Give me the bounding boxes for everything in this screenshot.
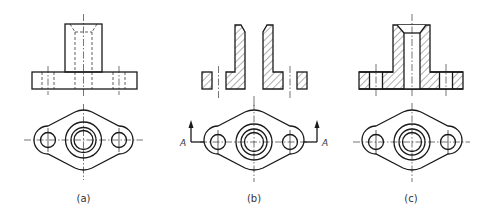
view-b: A A (b): [179, 25, 328, 204]
caption-c: (c): [404, 193, 417, 204]
section-label-right: A: [321, 138, 328, 148]
technical-drawing: (a): [0, 0, 493, 218]
view-c: (c): [353, 14, 470, 204]
view-b-section-pieces: [202, 25, 307, 106]
view-a: (a): [24, 14, 143, 204]
view-a-front: [32, 14, 137, 98]
view-b-top: A A: [179, 103, 328, 182]
section-arrow-right: [304, 120, 320, 142]
section-arrow-left: [189, 120, 205, 142]
view-a-top: [24, 104, 143, 180]
view-c-top: [353, 103, 470, 182]
caption-a: (a): [77, 193, 91, 204]
caption-b: (b): [247, 193, 261, 204]
view-c-full-section: [359, 14, 463, 98]
section-label-left: A: [179, 138, 186, 148]
